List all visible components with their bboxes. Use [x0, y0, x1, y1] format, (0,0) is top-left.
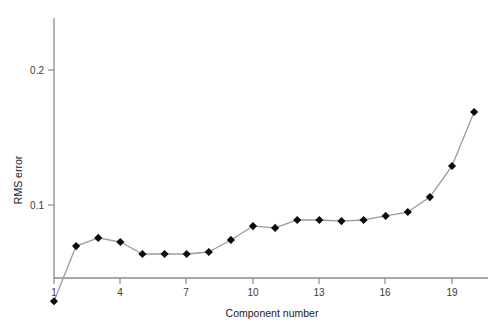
- x-axis-ticks: [54, 278, 452, 284]
- data-point-marker: [315, 216, 323, 224]
- x-tick-label-2: 7: [183, 287, 189, 298]
- x-tick-label-6: 19: [446, 287, 458, 298]
- data-series-line: [54, 112, 474, 301]
- data-point-marker: [293, 216, 301, 224]
- data-point-marker: [271, 224, 279, 232]
- data-point-marker: [359, 216, 367, 224]
- data-point-marker: [138, 250, 146, 258]
- x-axis-title: Component number: [226, 307, 319, 319]
- data-point-marker: [249, 222, 257, 230]
- chart-figure: 0.2 0.1 RMS error 1 4 7 10 13 16 19 Comp…: [0, 0, 492, 331]
- rms-error-line-chart: 0.2 0.1 RMS error 1 4 7 10 13 16 19 Comp…: [0, 0, 492, 331]
- y-axis-tick-labels: 0.2 0.1: [30, 65, 44, 211]
- x-tick-label-5: 16: [379, 287, 391, 298]
- data-point-marker: [160, 250, 168, 258]
- y-axis-title: RMS error: [12, 155, 24, 204]
- data-series-markers: [50, 108, 478, 305]
- y-axis-ticks: [48, 70, 54, 205]
- data-point-marker: [227, 236, 235, 244]
- data-point-marker: [94, 234, 102, 242]
- y-tick-label-0: 0.2: [30, 65, 44, 76]
- x-tick-label-1: 4: [117, 287, 123, 298]
- data-point-marker: [470, 108, 478, 116]
- x-tick-label-3: 10: [247, 287, 259, 298]
- data-point-marker: [72, 242, 80, 250]
- data-point-marker: [337, 217, 345, 225]
- x-tick-label-4: 13: [313, 287, 325, 298]
- data-point-marker: [116, 238, 124, 246]
- y-tick-label-1: 0.1: [30, 200, 44, 211]
- data-point-marker: [50, 297, 58, 305]
- data-point-marker: [448, 162, 456, 170]
- data-point-marker: [426, 193, 434, 201]
- data-point-marker: [205, 248, 213, 256]
- data-point-marker: [404, 208, 412, 216]
- data-point-marker: [183, 250, 191, 258]
- data-point-marker: [382, 212, 390, 220]
- x-axis-tick-labels: 1 4 7 10 13 16 19: [51, 287, 458, 298]
